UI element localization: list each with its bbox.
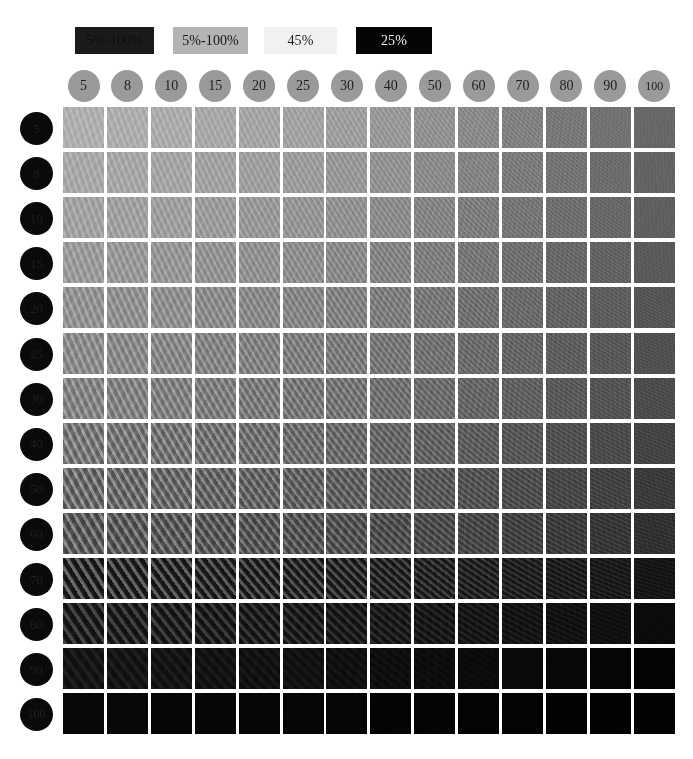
- row-header-column: 581015202530405060708090100: [20, 108, 56, 738]
- column-header-80[interactable]: 80: [550, 70, 582, 102]
- patch-r60-c40: [370, 513, 411, 554]
- screen-pattern: [590, 693, 631, 734]
- row-header-8[interactable]: 8: [20, 157, 53, 190]
- patch-r15-c20: [239, 242, 280, 283]
- screen-pattern: [107, 197, 148, 238]
- screen-pattern: [414, 152, 455, 193]
- row-header-90[interactable]: 90: [20, 653, 53, 686]
- patch-r15-c100: [634, 242, 675, 283]
- column-header-60[interactable]: 60: [463, 70, 495, 102]
- screen-pattern: [151, 648, 192, 689]
- screen-pattern: [634, 693, 675, 734]
- screen-pattern: [546, 513, 587, 554]
- row-header-20[interactable]: 20: [20, 292, 53, 325]
- screen-pattern: [502, 693, 543, 734]
- patch-r80-c100: [634, 603, 675, 644]
- screen-pattern: [370, 648, 411, 689]
- screen-pattern: [326, 378, 367, 419]
- legend-bar: 5%-100%5%-100%45%25%: [75, 27, 432, 54]
- patch-r25-c40: [370, 333, 411, 374]
- row-header-15[interactable]: 15: [20, 247, 53, 280]
- screen-pattern: [283, 107, 324, 148]
- screen-pattern: [458, 693, 499, 734]
- screen-pattern: [458, 107, 499, 148]
- row-header-40[interactable]: 40: [20, 428, 53, 461]
- row-header-60[interactable]: 60: [20, 518, 53, 551]
- column-header-70[interactable]: 70: [507, 70, 539, 102]
- patch-r70-c20: [239, 558, 280, 599]
- column-header-100[interactable]: 100: [638, 70, 670, 102]
- patch-r60-c10: [151, 513, 192, 554]
- patch-r70-c8: [107, 558, 148, 599]
- patch-r40-c8: [107, 423, 148, 464]
- patch-r70-c80: [546, 558, 587, 599]
- column-header-30[interactable]: 30: [331, 70, 363, 102]
- row-header-100[interactable]: 100: [20, 698, 53, 731]
- row-header-70[interactable]: 70: [20, 563, 53, 596]
- patch-r90-c70: [502, 648, 543, 689]
- column-header-25[interactable]: 25: [287, 70, 319, 102]
- patch-r90-c10: [151, 648, 192, 689]
- patch-r100-c8: [107, 693, 148, 734]
- patch-r100-c70: [502, 693, 543, 734]
- row-header-5[interactable]: 5: [20, 112, 53, 145]
- screen-pattern: [546, 107, 587, 148]
- screen-pattern: [283, 603, 324, 644]
- column-header-50[interactable]: 50: [419, 70, 451, 102]
- screen-pattern: [326, 513, 367, 554]
- column-header-15[interactable]: 15: [199, 70, 231, 102]
- column-header-90[interactable]: 90: [594, 70, 626, 102]
- patch-r90-c5: [63, 648, 104, 689]
- screen-pattern: [107, 378, 148, 419]
- screen-pattern: [590, 468, 631, 509]
- column-header-5[interactable]: 5: [68, 70, 100, 102]
- column-header-10[interactable]: 10: [155, 70, 187, 102]
- row-header-10[interactable]: 10: [20, 202, 53, 235]
- screen-pattern: [370, 693, 411, 734]
- patch-r15-c40: [370, 242, 411, 283]
- patch-r80-c60: [458, 603, 499, 644]
- patch-r30-c40: [370, 378, 411, 419]
- screen-pattern: [502, 197, 543, 238]
- screen-pattern: [414, 693, 455, 734]
- screen-pattern: [63, 378, 104, 419]
- patch-r50-c60: [458, 468, 499, 509]
- patch-r30-c50: [414, 378, 455, 419]
- column-header-20[interactable]: 20: [243, 70, 275, 102]
- screen-pattern: [195, 197, 236, 238]
- screen-pattern: [634, 152, 675, 193]
- screen-pattern: [239, 333, 280, 374]
- patch-r10-c15: [195, 197, 236, 238]
- patch-r5-c8: [107, 107, 148, 148]
- screen-pattern: [634, 603, 675, 644]
- screen-pattern: [283, 197, 324, 238]
- patch-r8-c90: [590, 152, 631, 193]
- column-header-8[interactable]: 8: [111, 70, 143, 102]
- patch-r90-c20: [239, 648, 280, 689]
- screen-pattern: [151, 152, 192, 193]
- screen-pattern: [370, 333, 411, 374]
- patch-r70-c10: [151, 558, 192, 599]
- legend-gap: [154, 27, 173, 54]
- screen-pattern: [283, 693, 324, 734]
- screen-pattern: [546, 197, 587, 238]
- screen-pattern: [195, 603, 236, 644]
- screen-pattern: [63, 107, 104, 148]
- screen-pattern: [283, 333, 324, 374]
- row-header-25[interactable]: 25: [20, 338, 53, 371]
- patch-r50-c8: [107, 468, 148, 509]
- screen-pattern: [239, 558, 280, 599]
- row-header-80[interactable]: 80: [20, 608, 53, 641]
- screen-pattern: [502, 287, 543, 328]
- row-header-30[interactable]: 30: [20, 383, 53, 416]
- screen-pattern: [239, 468, 280, 509]
- patch-r70-c40: [370, 558, 411, 599]
- patch-r8-c40: [370, 152, 411, 193]
- row-header-50[interactable]: 50: [20, 473, 53, 506]
- screen-pattern: [151, 603, 192, 644]
- column-header-40[interactable]: 40: [375, 70, 407, 102]
- patch-r10-c70: [502, 197, 543, 238]
- screen-pattern: [63, 468, 104, 509]
- screen-pattern: [458, 197, 499, 238]
- patch-r50-c100: [634, 468, 675, 509]
